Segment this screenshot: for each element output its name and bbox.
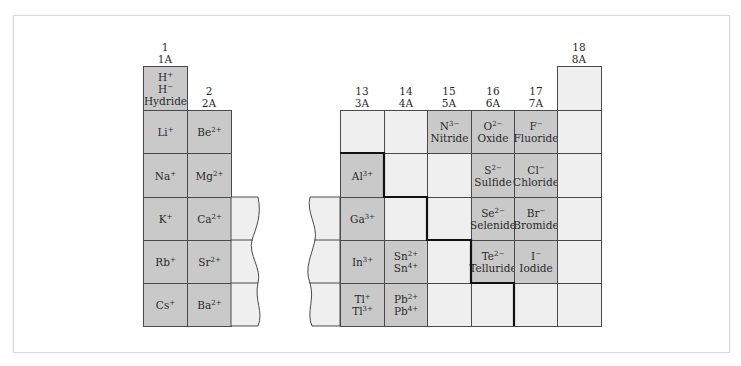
break-and-boundary-overlay <box>0 0 741 366</box>
metal-nonmetal-boundary <box>340 153 514 326</box>
left-break-strip <box>231 197 260 326</box>
right-break-strip <box>308 197 340 326</box>
